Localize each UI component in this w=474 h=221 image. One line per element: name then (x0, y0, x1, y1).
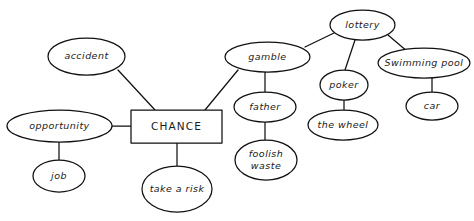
mind-map-svg: CHANCEaccidentopportunityjobtake a riskg… (0, 0, 474, 221)
edge-gamble-chance (205, 70, 238, 110)
node-label-foolish-waste: waste (251, 160, 281, 171)
node-label-accident: accident (64, 50, 109, 61)
node-poker[interactable]: poker (320, 70, 368, 100)
node-label-lottery: lottery (345, 19, 379, 30)
node-job[interactable]: job (33, 160, 85, 192)
mind-map-canvas: CHANCEaccidentopportunityjobtake a riskg… (0, 0, 474, 221)
node-label-take-a-risk: take a risk (150, 183, 205, 194)
node-label-the-wheel: the wheel (318, 119, 369, 130)
node-label-foolish-waste: foolish (249, 148, 283, 159)
nodes-layer: CHANCEaccidentopportunityjobtake a riskg… (7, 10, 470, 212)
node-father[interactable]: father (234, 92, 296, 122)
node-label-poker: poker (328, 79, 359, 90)
node-chance[interactable]: CHANCE (131, 110, 222, 143)
node-opportunity[interactable]: opportunity (7, 110, 112, 142)
edge-accident-chance (118, 70, 155, 110)
node-take-a-risk[interactable]: take a risk (142, 166, 212, 212)
node-label-gamble: gamble (248, 51, 286, 62)
node-lottery[interactable]: lottery (330, 10, 395, 40)
node-label-swimming-pool: Swimming pool (385, 57, 464, 68)
node-foolish-waste[interactable]: foolishwaste (235, 140, 297, 180)
node-accident[interactable]: accident (48, 38, 125, 75)
node-label-father: father (249, 101, 281, 112)
edge-gamble-lottery (305, 33, 334, 47)
node-label-car: car (424, 100, 441, 111)
edge-lottery-poker (345, 40, 355, 70)
node-swimming-pool[interactable]: Swimming pool (378, 48, 470, 78)
node-label-opportunity: opportunity (29, 120, 89, 131)
node-label-chance: CHANCE (151, 120, 202, 132)
node-the-wheel[interactable]: the wheel (308, 110, 378, 140)
node-label-job: job (49, 170, 67, 181)
node-gamble[interactable]: gamble (225, 42, 310, 72)
node-car[interactable]: car (406, 92, 458, 120)
